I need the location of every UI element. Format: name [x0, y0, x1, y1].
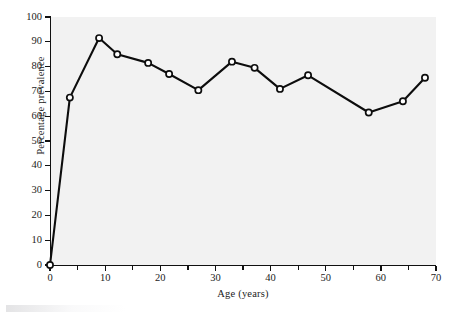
x-tick-minor: [298, 266, 299, 270]
x-tick: [105, 266, 106, 271]
x-tick: [49, 266, 50, 271]
y-tick-label-wrap: 20: [14, 210, 42, 221]
x-tick: [215, 266, 216, 271]
y-axis-line: [50, 16, 51, 266]
x-tick-label: 60: [366, 272, 396, 284]
x-axis-title: Age (years): [50, 288, 436, 299]
y-tick-label: 20: [16, 210, 42, 221]
x-tick: [380, 266, 381, 271]
scan-artifact: [6, 305, 126, 312]
x-tick-minor: [242, 266, 243, 270]
x-tick-minor: [187, 266, 188, 270]
x-tick: [435, 266, 436, 271]
plot-area: [50, 17, 436, 265]
y-tick-label-wrap: 0: [14, 260, 42, 271]
x-tick-label: 40: [256, 272, 286, 284]
x-tick: [160, 266, 161, 271]
x-tick-minor: [77, 266, 78, 270]
x-tick-label: 70: [421, 272, 451, 284]
y-tick: [45, 240, 50, 241]
y-tick: [45, 66, 50, 67]
x-tick-minor: [408, 266, 409, 270]
y-tick-label-wrap: 10: [14, 235, 42, 246]
x-tick-label: 30: [200, 272, 230, 284]
x-tick-label: 20: [145, 272, 175, 284]
x-tick: [270, 266, 271, 271]
x-tick-minor: [353, 266, 354, 270]
y-axis-title: Percentage prevalence: [35, 6, 46, 206]
chart-figure: 0102030405060708090100 010203040506070 P…: [0, 0, 455, 317]
y-tick: [45, 190, 50, 191]
y-tick: [45, 16, 50, 17]
y-tick-label: 0: [16, 260, 42, 271]
y-tick: [45, 41, 50, 42]
y-tick: [45, 165, 50, 166]
y-tick: [45, 215, 50, 216]
x-tick-label: 0: [35, 272, 65, 284]
y-tick: [45, 91, 50, 92]
x-tick: [325, 266, 326, 271]
y-tick-label: 10: [16, 235, 42, 246]
x-tick-minor: [132, 266, 133, 270]
x-tick-label: 50: [311, 272, 341, 284]
y-tick: [45, 116, 50, 117]
y-tick: [45, 140, 50, 141]
x-tick-label: 10: [90, 272, 120, 284]
